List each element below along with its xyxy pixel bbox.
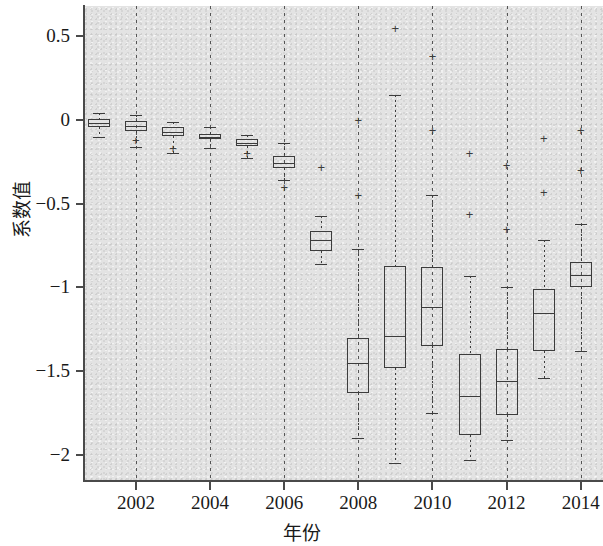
whisker-upper (507, 287, 508, 349)
outlier-marker-0: + (169, 142, 177, 155)
cap-upper (352, 249, 364, 250)
outlier-marker-1: + (577, 164, 585, 177)
x-tick-label-3: 2008 (339, 492, 377, 514)
y-tick-label-5: −2 (0, 444, 70, 466)
cap-upper (389, 95, 401, 96)
y-tick-label-1: 0 (0, 109, 70, 131)
x-tick-label-5: 2012 (488, 492, 526, 514)
median-line (421, 307, 443, 308)
cap-lower (501, 440, 513, 441)
cap-upper (130, 115, 142, 116)
whisker-lower (470, 435, 471, 460)
whisker-upper (432, 195, 433, 267)
gridline-2006 (284, 6, 285, 480)
whisker-lower (321, 251, 322, 264)
cap-upper (93, 113, 105, 114)
cap-upper (241, 135, 253, 136)
cap-upper (315, 216, 327, 217)
x-tick-label-0: 2002 (117, 492, 155, 514)
median-line (570, 275, 592, 276)
median-line (273, 163, 295, 164)
box-iqr (459, 354, 481, 434)
x-tick-label-6: 2014 (562, 492, 600, 514)
whisker-upper (210, 127, 211, 135)
x-tick-mark-5 (506, 482, 508, 490)
y-axis-line (83, 5, 85, 482)
x-axis-title: 年份 (0, 518, 603, 545)
whisker-lower (284, 168, 285, 181)
y-tick-mark-2 (76, 203, 84, 205)
y-tick-label-3: −1 (0, 276, 70, 298)
whisker-upper (321, 216, 322, 231)
plot-area: ++++++++++++++++++ (84, 6, 603, 480)
cap-lower (315, 264, 327, 265)
box-iqr (384, 266, 406, 367)
cap-upper (538, 240, 550, 241)
outlier-marker-1: + (429, 123, 437, 136)
outlier-marker-0: + (132, 133, 140, 146)
cap-lower (93, 137, 105, 138)
whisker-upper (581, 224, 582, 263)
whisker-upper (395, 95, 396, 267)
y-tick-label-0: 0.5 (0, 25, 70, 47)
gridline-2004 (210, 6, 211, 480)
outlier-marker-0: + (280, 180, 288, 193)
cap-lower (352, 438, 364, 439)
whisker-lower (581, 287, 582, 351)
median-line (533, 313, 555, 314)
median-line (347, 363, 369, 364)
outlier-marker-0: + (317, 160, 325, 173)
median-line (199, 137, 221, 138)
cap-lower (575, 351, 587, 352)
median-line (459, 396, 481, 397)
outlier-marker-0: + (466, 147, 474, 160)
x-tick-mark-2 (283, 482, 285, 490)
cap-upper (501, 287, 513, 288)
x-tick-mark-1 (209, 482, 211, 490)
outlier-marker-0: + (503, 159, 511, 172)
cap-lower (389, 463, 401, 464)
median-line (384, 336, 406, 337)
cap-upper (278, 143, 290, 144)
cap-upper (426, 195, 438, 196)
outlier-marker-1: + (466, 207, 474, 220)
outlier-marker-0: + (429, 50, 437, 63)
y-tick-mark-3 (76, 286, 84, 288)
cap-upper (204, 127, 216, 128)
x-tick-mark-4 (431, 482, 433, 490)
whisker-lower (358, 393, 359, 438)
median-line (236, 143, 258, 144)
outlier-marker-1: + (355, 189, 363, 202)
whisker-lower (544, 351, 545, 378)
boxplot-figure: ++++++++++++++++++ 0.50−0.5−1−1.5−2 2002… (0, 0, 603, 546)
outlier-marker-0: + (243, 147, 251, 160)
plot-background-texture (84, 6, 603, 480)
outlier-marker-0: + (577, 123, 585, 136)
cap-upper (167, 122, 179, 123)
whisker-upper (470, 276, 471, 355)
whisker-lower (432, 346, 433, 413)
x-tick-label-4: 2010 (413, 492, 451, 514)
y-tick-mark-1 (76, 119, 84, 121)
box-iqr (347, 338, 369, 393)
y-tick-mark-4 (76, 370, 84, 372)
whisker-lower (507, 415, 508, 440)
x-axis-line (83, 480, 603, 482)
whisker-upper (284, 143, 285, 156)
outlier-marker-0: + (540, 132, 548, 145)
gridline-2002 (136, 6, 137, 480)
outlier-marker-1: + (540, 185, 548, 198)
whisker-lower (210, 139, 211, 148)
outlier-marker-0: + (355, 113, 363, 126)
x-tick-mark-3 (357, 482, 359, 490)
outlier-marker-0: + (392, 21, 400, 34)
cap-lower (464, 460, 476, 461)
whisker-upper (544, 240, 545, 289)
cap-upper (464, 276, 476, 277)
whisker-lower (99, 127, 100, 136)
cap-lower (538, 378, 550, 379)
x-tick-mark-0 (135, 482, 137, 490)
y-tick-mark-5 (76, 454, 84, 456)
median-line (162, 132, 184, 133)
box-iqr (533, 289, 555, 351)
